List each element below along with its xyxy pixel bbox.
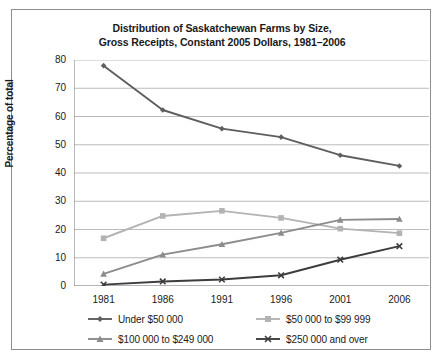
x-tick-label: 1981 bbox=[78, 295, 130, 305]
gridlines bbox=[74, 60, 429, 258]
y-tick-label: 50 bbox=[40, 140, 66, 150]
y-tick-label: 70 bbox=[40, 83, 66, 93]
legend-marker-triangle-icon bbox=[87, 333, 113, 345]
y-tick-label: 60 bbox=[40, 112, 66, 122]
data-point-square bbox=[265, 316, 271, 322]
data-point-square bbox=[337, 226, 343, 232]
data-point-square bbox=[101, 235, 107, 241]
legend-item-50000-99999[interactable]: $50 000 to $99 999 bbox=[255, 309, 397, 329]
plot-area bbox=[74, 60, 429, 286]
legend-marker-square-icon bbox=[255, 313, 281, 325]
y-tick-label: 30 bbox=[40, 196, 66, 206]
chart-plot-svg bbox=[74, 60, 429, 286]
x-tick-label: 1986 bbox=[137, 295, 189, 305]
y-tick-label: 10 bbox=[40, 253, 66, 263]
y-axis-title: Percentage of total bbox=[4, 44, 15, 204]
y-tick-label: 20 bbox=[40, 225, 66, 235]
data-series-group bbox=[100, 63, 402, 286]
chart-title: Distribution of Saskatchewan Farms by Si… bbox=[12, 21, 432, 49]
legend-row-2: $100 000 to $249 000 $250 000 and over bbox=[87, 329, 397, 349]
legend-item-100000-249000[interactable]: $100 000 to $249 000 bbox=[87, 329, 255, 349]
data-point-diamond bbox=[278, 134, 284, 140]
series-line-3 bbox=[104, 246, 400, 284]
legend-marker-cross-icon bbox=[255, 333, 281, 345]
data-point-diamond bbox=[97, 316, 103, 322]
data-point-square bbox=[397, 230, 403, 236]
x-tick-label: 1991 bbox=[196, 295, 248, 305]
legend-label-50000-99999: $50 000 to $99 999 bbox=[286, 314, 370, 325]
legend-item-250000-and-over[interactable]: $250 000 and over bbox=[255, 329, 397, 349]
data-point-diamond bbox=[397, 163, 403, 169]
x-tick-label: 1996 bbox=[255, 295, 307, 305]
y-tick-label: 80 bbox=[40, 55, 66, 65]
y-tick-label: 0 bbox=[40, 281, 66, 291]
chart-legend: Under $50 000 $50 000 to $99 999 $100 00… bbox=[87, 309, 397, 349]
data-point-square bbox=[278, 215, 284, 221]
data-point-square bbox=[219, 208, 225, 214]
legend-label-under-50000: Under $50 000 bbox=[118, 314, 183, 325]
chart-title-line-2: Gross Receipts, Constant 2005 Dollars, 1… bbox=[12, 35, 432, 49]
x-tick-label: 2006 bbox=[373, 295, 425, 305]
series-line-0 bbox=[104, 66, 400, 166]
chart-container: Distribution of Saskatchewan Farms by Si… bbox=[11, 9, 431, 350]
data-point-diamond bbox=[219, 126, 225, 132]
data-point-square bbox=[160, 213, 166, 219]
x-tick-label: 2001 bbox=[314, 295, 366, 305]
series-line-2 bbox=[104, 219, 400, 274]
series-line-1 bbox=[104, 211, 400, 238]
legend-label-100000-249000: $100 000 to $249 000 bbox=[118, 334, 213, 345]
legend-item-under-50000[interactable]: Under $50 000 bbox=[87, 309, 255, 329]
data-point-diamond bbox=[337, 152, 343, 158]
chart-title-line-1: Distribution of Saskatchewan Farms by Si… bbox=[112, 22, 331, 34]
legend-label-250000-and-over: $250 000 and over bbox=[286, 334, 368, 345]
legend-marker-diamond-icon bbox=[87, 313, 113, 325]
legend-row-1: Under $50 000 $50 000 to $99 999 bbox=[87, 309, 397, 329]
y-tick-label: 40 bbox=[40, 168, 66, 178]
